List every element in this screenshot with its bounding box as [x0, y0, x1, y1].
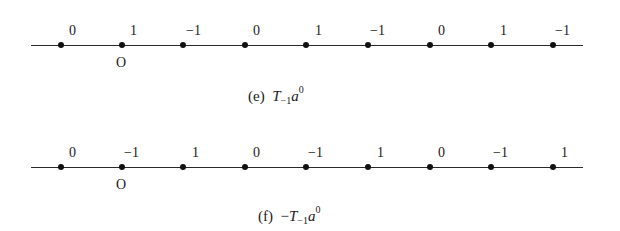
lattice-point [242, 164, 248, 170]
figure-f: 0 −1 1 0 −1 1 0 −1 1 O (f) −T−1a0 [0, 115, 620, 230]
lattice-point [119, 164, 125, 170]
point-value: 0 [253, 146, 260, 160]
point-value: 1 [561, 146, 568, 160]
point-value: −1 [370, 24, 385, 38]
figure-caption: (e) T−1a0 [248, 82, 304, 109]
caption-operator-subscript: −1 [281, 95, 292, 106]
lattice-point [365, 42, 371, 48]
point-value: 0 [438, 24, 445, 38]
caption-prefix: − [281, 208, 289, 224]
point-value: 1 [500, 24, 507, 38]
figure-e: 0 1 −1 0 1 −1 0 1 −1 O (e) T−1a0 [0, 0, 620, 115]
caption-variable: a [291, 88, 299, 104]
lattice-point [58, 164, 64, 170]
caption-variable-superscript: 0 [315, 204, 320, 215]
lattice-point [550, 42, 556, 48]
lattice-point [303, 42, 309, 48]
point-value: 1 [377, 146, 384, 160]
lattice-point [488, 164, 494, 170]
point-value: 1 [130, 24, 137, 38]
point-value: −1 [308, 146, 323, 160]
caption-operator-subscript: −1 [297, 215, 308, 226]
point-value: 0 [438, 146, 445, 160]
lattice-point [242, 42, 248, 48]
point-value: 0 [69, 146, 76, 160]
caption-variable-superscript: 0 [299, 84, 304, 95]
point-value: −1 [493, 146, 508, 160]
point-value: −1 [186, 24, 201, 38]
lattice-point [427, 164, 433, 170]
origin-label: O [116, 56, 126, 70]
point-value: 1 [315, 24, 322, 38]
lattice-point [180, 42, 186, 48]
figure-caption: (f) −T−1a0 [258, 202, 320, 229]
caption-operator: T [272, 88, 280, 104]
point-value: 0 [69, 24, 76, 38]
caption-label: (f) [258, 208, 273, 224]
point-value: −1 [124, 146, 139, 160]
lattice-point [58, 42, 64, 48]
point-value: 0 [253, 24, 260, 38]
lattice-point [180, 164, 186, 170]
lattice-point [488, 42, 494, 48]
point-value: −1 [555, 24, 570, 38]
point-value: 1 [192, 146, 199, 160]
lattice-point [119, 42, 125, 48]
lattice-point [550, 164, 556, 170]
lattice-point [427, 42, 433, 48]
lattice-point [303, 164, 309, 170]
lattice-point [365, 164, 371, 170]
caption-label: (e) [248, 88, 265, 104]
origin-label: O [116, 178, 126, 192]
